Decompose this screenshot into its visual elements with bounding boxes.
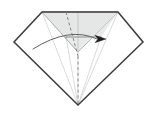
- origami-figure-container: Origami folding step diagram Diamond-sha…: [0, 0, 156, 116]
- origami-fold-diagram: Origami folding step diagram Diamond-sha…: [0, 0, 156, 116]
